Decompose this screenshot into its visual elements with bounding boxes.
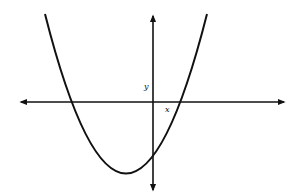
parabola-curve xyxy=(45,14,207,174)
parabola-graph: y x xyxy=(0,0,296,195)
x-axis-label: x xyxy=(165,105,170,114)
y-axis-label: y xyxy=(143,82,149,91)
